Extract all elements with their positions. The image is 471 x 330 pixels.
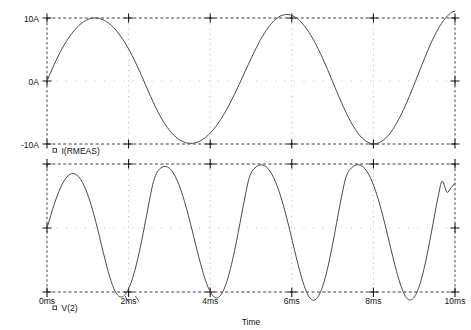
legend-v2[interactable]: V(2) [53, 303, 78, 313]
xtick-label-1: 2ms [121, 296, 137, 306]
xtick-label-2: 4ms [202, 296, 218, 306]
xtick-label-5: 10ms [445, 296, 466, 306]
top-panel-ytick-label-zero: 0A [29, 77, 40, 87]
legend-marker-square-i-rmeas [53, 149, 57, 153]
top-panel-bottom-ticks [43, 140, 460, 149]
legend-label-v2: V(2) [62, 303, 78, 313]
trace-i-rmeas [47, 11, 455, 144]
bottom-panel: 500V 0V -500V [0, 160, 471, 314]
legend-marker-square-v2 [53, 306, 57, 310]
top-panel-ytick-label-min: -10A [21, 140, 39, 150]
bottom-trace-final-mask [0, 160, 471, 296]
top-panel: 10A 0A -10A I(RMEAS) [21, 11, 459, 156]
top-panel-ytick-label-max: 10A [24, 14, 39, 24]
legend-i-rmeas[interactable]: I(RMEAS) [53, 146, 100, 156]
xtick-label-4: 8ms [365, 296, 381, 306]
x-axis: 0ms 2ms 4ms 6ms 8ms 10ms Time [39, 296, 465, 328]
top-panel-frame [47, 18, 455, 144]
xtick-label-3: 6ms [284, 296, 300, 306]
xtick-label-0: 0ms [39, 296, 55, 306]
x-axis-title: Time [242, 317, 261, 327]
legend-label-i-rmeas: I(RMEAS) [62, 146, 100, 156]
waveform-viewer: 10A 0A -10A I(RMEAS) [0, 0, 471, 330]
top-panel-zero-ticks [43, 77, 460, 86]
probe-plot-canvas: 10A 0A -10A I(RMEAS) [0, 0, 471, 330]
